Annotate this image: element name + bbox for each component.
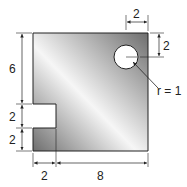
radius-label: r = 1: [157, 84, 182, 98]
dimension-diagram: r = 1 6 2 2 2 8 2 2: [0, 0, 187, 187]
dim-label-8: 8: [97, 169, 104, 183]
dim-label-notch-width: 2: [41, 169, 48, 183]
dim-label-bottom: 2: [9, 133, 16, 147]
dim-label-hole-y: 2: [163, 39, 170, 53]
dim-label-notch: 2: [9, 110, 16, 124]
dim-label-6: 6: [9, 62, 16, 76]
dim-label-hole-x: 2: [133, 7, 140, 21]
